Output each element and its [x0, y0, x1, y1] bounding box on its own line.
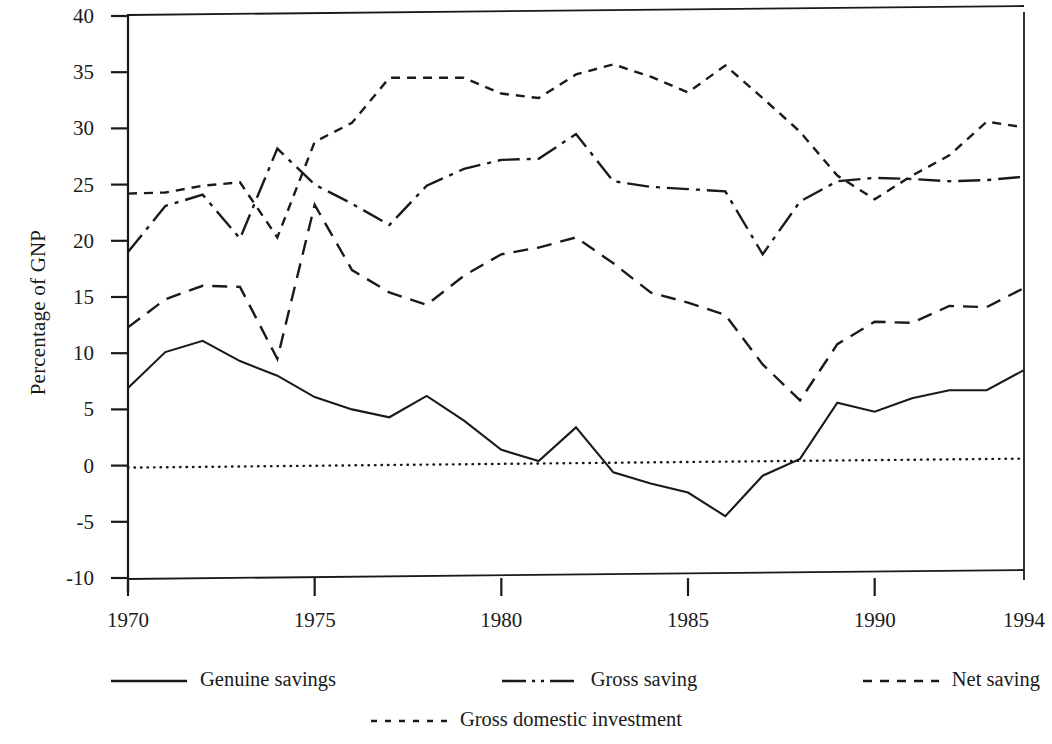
- x-tick-label: 1985: [667, 608, 709, 633]
- y-tick-label: 35: [48, 60, 94, 85]
- x-tick-label: 1990: [854, 608, 896, 633]
- series-line: [128, 134, 1024, 254]
- legend-label: Gross saving: [591, 668, 697, 691]
- series-line: [128, 205, 1024, 401]
- chart-figure: Percentage of GNP 4035302520151050-5-10 …: [0, 0, 1052, 744]
- dash-dot-line-swatch-icon: [501, 673, 579, 687]
- y-axis-title: Percentage of GNP: [26, 183, 51, 443]
- legend-label: Net saving: [952, 668, 1040, 691]
- legend-item-gross-saving[interactable]: Gross saving: [501, 668, 697, 691]
- y-tick-label: 5: [48, 397, 94, 422]
- data-series: [128, 64, 1024, 516]
- x-tick-label: 1980: [480, 608, 522, 633]
- legend-row-primary: Genuine savingsGross savingNet saving: [110, 668, 1040, 691]
- dashed-line-swatch-icon: [862, 673, 940, 687]
- y-tick-label: 30: [48, 116, 94, 141]
- x-tick-label: 1994: [1003, 608, 1045, 633]
- y-tick-label: -5: [48, 509, 94, 534]
- series-line: [128, 341, 1024, 516]
- legend-item-genuine-savings[interactable]: Genuine savings: [110, 668, 336, 691]
- y-tick-label: -10: [48, 566, 94, 591]
- x-tick-label: 1970: [107, 608, 149, 633]
- x-tick-label: 1975: [294, 608, 336, 633]
- dotted-dash-line-swatch-icon: [370, 713, 448, 727]
- legend-label: Genuine savings: [200, 668, 336, 691]
- y-tick-label: 10: [48, 341, 94, 366]
- axes: [111, 6, 1024, 596]
- legend-label: Gross domestic investment: [460, 708, 682, 731]
- y-tick-label: 0: [48, 453, 94, 478]
- legend-item-gross-domestic-investment[interactable]: Gross domestic investment: [370, 708, 682, 731]
- y-tick-label: 40: [48, 4, 94, 29]
- series-line: [128, 64, 1024, 237]
- y-tick-label: 20: [48, 228, 94, 253]
- y-tick-label: 15: [48, 285, 94, 310]
- legend-item-net-saving[interactable]: Net saving: [862, 668, 1040, 691]
- y-tick-label: 25: [48, 172, 94, 197]
- solid-line-swatch-icon: [110, 673, 188, 687]
- legend-row-secondary: Gross domestic investment: [0, 708, 1052, 731]
